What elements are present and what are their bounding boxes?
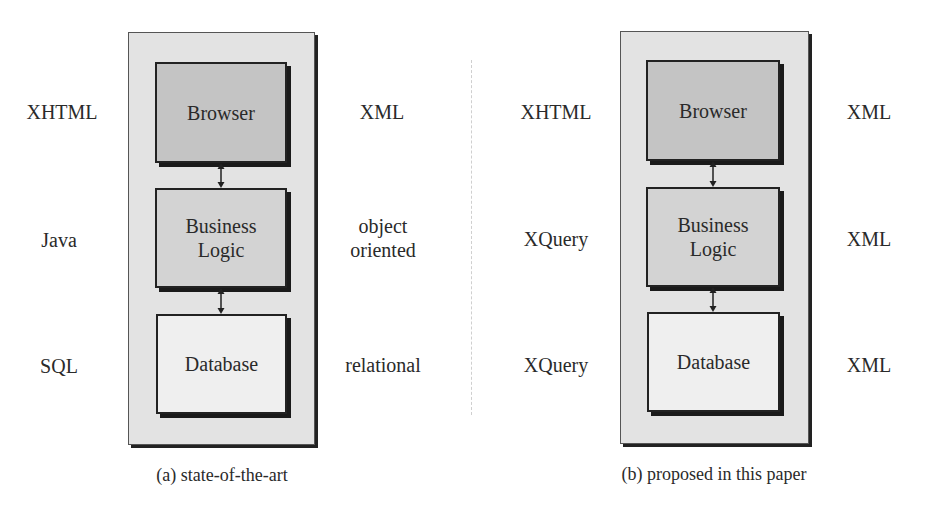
bidirectional-arrow-icon	[216, 288, 226, 314]
database-tier-box-a: Database	[156, 314, 287, 414]
business-logic-tier-label-a: Business Logic	[176, 214, 266, 262]
logic-data-model-label-a: object oriented	[338, 214, 428, 262]
bidirectional-arrow-icon	[708, 161, 718, 187]
database-data-model-label-a: relational	[345, 353, 421, 377]
browser-language-label-a: XHTML	[26, 100, 97, 124]
business-logic-tier-box-b: Business Logic	[646, 187, 780, 287]
business-logic-tier-label-b: Business Logic	[668, 213, 758, 261]
database-language-label-a: SQL	[40, 354, 78, 378]
database-data-model-label-b: XML	[847, 353, 891, 377]
business-logic-tier-box-a: Business Logic	[155, 188, 287, 288]
logic-language-label-b: XQuery	[524, 227, 588, 251]
browser-tier-box-b: Browser	[646, 60, 780, 161]
browser-data-model-label-a: XML	[360, 100, 404, 124]
browser-tier-label-b: Browser	[679, 99, 747, 123]
browser-tier-label-a: Browser	[187, 101, 255, 125]
logic-language-label-a: Java	[41, 228, 77, 252]
logic-data-model-label-b: XML	[847, 227, 891, 251]
browser-language-label-b: XHTML	[520, 100, 591, 124]
browser-data-model-label-b: XML	[847, 100, 891, 124]
diagram-divider	[471, 60, 472, 415]
caption-a: (a) state-of-the-art	[156, 464, 287, 486]
database-tier-label-b: Database	[677, 350, 750, 374]
browser-tier-box-a: Browser	[155, 62, 287, 163]
caption-b: (b) proposed in this paper	[622, 463, 807, 485]
database-language-label-b: XQuery	[524, 353, 588, 377]
bidirectional-arrow-icon	[216, 163, 226, 188]
bidirectional-arrow-icon	[708, 287, 718, 312]
database-tier-label-a: Database	[185, 352, 258, 376]
database-tier-box-b: Database	[647, 312, 780, 412]
